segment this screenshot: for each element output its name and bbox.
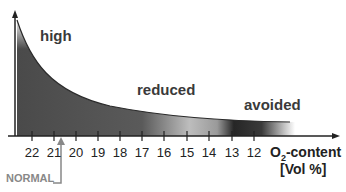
x-tick-label: 15: [176, 146, 198, 159]
x-tick-label: 13: [221, 146, 243, 159]
x-tick-label: 16: [153, 146, 175, 159]
normal-marker-label: NORMAL: [6, 172, 54, 184]
x-tick-label: 19: [87, 146, 109, 159]
x-tick-label: 12: [243, 146, 265, 159]
x-tick-label: 21: [43, 146, 65, 159]
x-tick-label: 14: [198, 146, 220, 159]
x-axis-unit: [Vol %]: [280, 162, 326, 177]
x-axis-arrow-icon: [332, 133, 340, 139]
zone-label-reduced: reduced: [137, 82, 195, 97]
zone-label-high: high: [40, 28, 72, 43]
zone-label-avoided: avoided: [244, 97, 301, 112]
y-axis-arrow-icon: [12, 10, 18, 18]
x-tick-label: 20: [65, 146, 87, 159]
x-tick-label: 22: [21, 146, 43, 159]
x-tick-label: 18: [109, 146, 131, 159]
x-tick-label: 17: [131, 146, 153, 159]
